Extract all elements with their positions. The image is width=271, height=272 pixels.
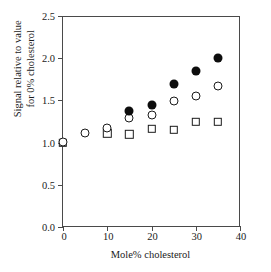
y-tick: 2.5 [58,16,63,17]
y-tick: 2.0 [58,58,63,59]
data-point-filled-circle [147,101,156,110]
data-point-filled-circle [125,107,134,116]
y-axis-title: Signal relative to value for 0% choleste… [12,0,38,157]
data-point-filled-circle [213,54,222,63]
data-point-open-circle [81,129,90,138]
data-point-open-square [125,130,133,138]
data-point-filled-circle [169,79,178,88]
y-axis-title-line2: for 0% cholesterol [25,0,38,157]
y-axis-title-line1: Signal relative to value [12,20,23,117]
y-tick: 0.5 [58,185,63,186]
plot-right-border [239,16,240,227]
y-tick-label: 1.0 [42,138,55,149]
x-tick-label: 10 [103,232,114,243]
x-tick: 0 [63,226,64,231]
chart-figure: 0.00.51.01.52.02.5 010203040 Mole% chole… [0,0,271,272]
x-tick: 20 [152,226,153,231]
x-tick: 40 [240,226,241,231]
data-point-open-circle [169,97,178,106]
y-tick-label: 2.5 [42,12,55,23]
y-tick-label: 2.0 [42,54,55,65]
y-tick: 1.5 [58,100,63,101]
data-point-open-circle [59,137,68,146]
x-axis-title: Mole% cholesterol [62,249,239,261]
data-point-open-square [192,117,200,125]
x-tick-label: 20 [147,232,158,243]
plot-area: 0.00.51.01.52.02.5 010203040 [62,16,239,227]
data-point-open-circle [213,82,222,91]
x-tick-label: 30 [192,232,203,243]
data-point-open-circle [191,92,200,101]
x-tick-label: 0 [61,232,66,243]
y-tick-label: 0.0 [42,223,55,234]
x-tick: 30 [196,226,197,231]
x-tick: 10 [107,226,108,231]
data-point-open-square [147,125,155,133]
y-tick-label: 0.5 [42,181,55,192]
data-point-filled-circle [191,66,200,75]
y-tick-label: 1.5 [42,96,55,107]
x-tick-label: 40 [236,232,247,243]
data-point-open-square [214,117,222,125]
data-point-open-square [169,126,177,134]
data-point-open-circle [103,124,112,133]
data-point-open-circle [147,110,156,119]
